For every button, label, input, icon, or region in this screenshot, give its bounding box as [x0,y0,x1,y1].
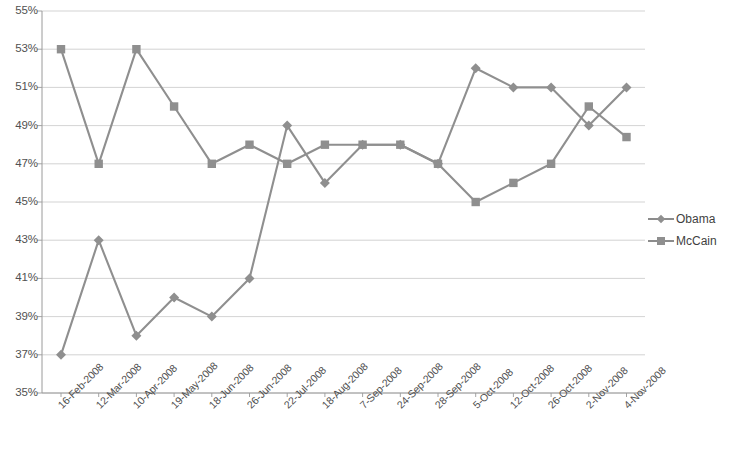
legend-label-mccain: McCain [676,234,717,248]
legend-item-obama: Obama [648,210,728,228]
legend-item-mccain: McCain [648,232,728,250]
polling-line-chart: 55%53%51%49%47%45%43%41%39%37%35% 16-Feb… [0,0,730,474]
mccain-legend-marker-icon [648,234,674,248]
chart-legend: Obama McCain [648,210,728,254]
x-axis-tick-labels: 16-Feb-200812-Mar-200810-Apr-200819-May-… [0,0,730,474]
legend-label-obama: Obama [676,212,715,226]
obama-legend-marker-icon [648,212,674,226]
